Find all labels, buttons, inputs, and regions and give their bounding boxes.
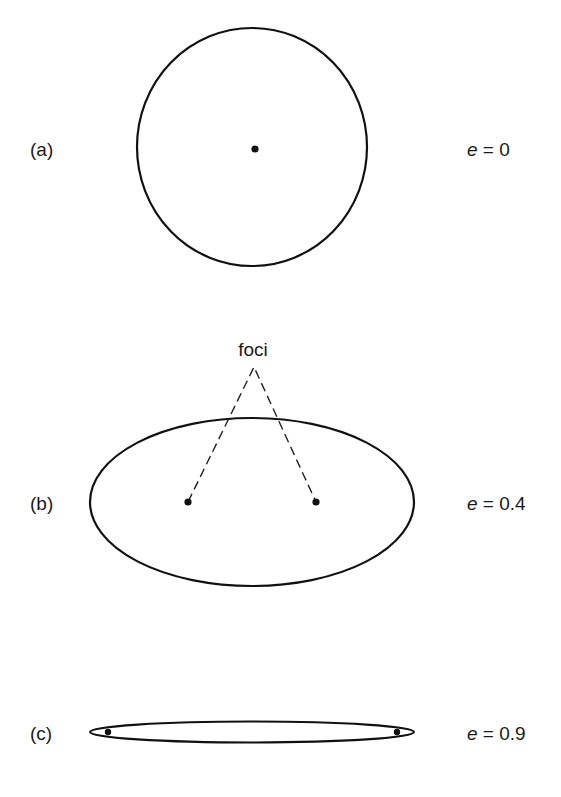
ellipse-eccentricity-figure: (a) e = 0 foci (b) e = 0.4 (c) e = 0.9 — [0, 0, 561, 797]
ellipse-orbit-b — [90, 418, 414, 586]
circle-orbit — [137, 28, 367, 266]
center-point — [251, 145, 258, 152]
panel-b-label: (b) — [30, 493, 53, 514]
equals-sign: = — [478, 723, 500, 744]
eccentricity-symbol: e — [467, 723, 478, 744]
focus-left-b — [184, 498, 191, 505]
panel-c: (c) e = 0.9 — [30, 722, 526, 745]
focus-left-c — [105, 729, 111, 735]
panel-b: foci (b) e = 0.4 — [30, 339, 526, 586]
eccentricity-value: 0 — [499, 139, 510, 160]
eccentricity-label-b: e = 0.4 — [467, 493, 526, 514]
equals-sign: = — [478, 139, 500, 160]
eccentricity-label-c: e = 0.9 — [467, 723, 526, 744]
panel-c-label: (c) — [30, 723, 52, 744]
eccentricity-value: 0.9 — [499, 723, 525, 744]
focus-right-b — [312, 498, 319, 505]
eccentricity-symbol: e — [467, 493, 478, 514]
foci-leader-lines — [188, 367, 316, 502]
eccentricity-label-a: e = 0 — [467, 139, 510, 160]
ellipse-orbit-c — [90, 722, 414, 743]
panel-a-label: (a) — [30, 139, 53, 160]
panel-a: (a) e = 0 — [30, 28, 510, 266]
focus-right-c — [394, 729, 400, 735]
equals-sign: = — [478, 493, 500, 514]
foci-label: foci — [238, 339, 268, 360]
eccentricity-symbol: e — [467, 139, 478, 160]
eccentricity-value: 0.4 — [499, 493, 526, 514]
